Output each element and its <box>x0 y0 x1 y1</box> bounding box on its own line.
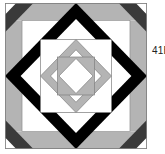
figure-label: 41B <box>152 45 165 56</box>
quilt-block <box>5 3 147 149</box>
